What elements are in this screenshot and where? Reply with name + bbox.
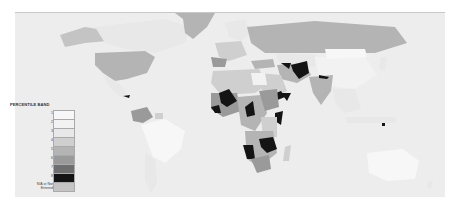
legend-title: PERCENTILE BAND [10, 102, 50, 107]
region-australia [367, 149, 419, 181]
legend-swatch-na [53, 182, 75, 192]
world-map-svg [15, 13, 445, 197]
legend-item-na: N/A or Not Entered [5, 182, 75, 191]
region-madagascar [283, 145, 291, 161]
region-guyana [155, 113, 163, 119]
legend-label: N/A or Not Entered [33, 183, 53, 190]
region-western-europe [215, 41, 247, 61]
legend-item-3: 3 [5, 128, 75, 137]
region-southern-cone [145, 153, 157, 193]
region-indonesia [345, 117, 397, 123]
region-japan [379, 57, 387, 71]
legend-item-2: 2 [5, 119, 75, 128]
region-egypt [251, 73, 267, 85]
region-angola-dark [243, 145, 255, 159]
region-caribbean-dark [123, 95, 130, 98]
region-india [309, 75, 333, 105]
region-turkey [251, 59, 275, 69]
legend-item-6: 6 [5, 155, 75, 164]
legend-item-7: 7 [5, 164, 75, 173]
legend-item-8: 8 [5, 173, 75, 182]
world-map [15, 12, 445, 197]
region-southeast-asia [333, 89, 361, 113]
legend-item-1: 1 [5, 110, 75, 119]
region-canada [95, 19, 190, 53]
region-scandinavia [225, 19, 251, 41]
region-new-zealand [427, 181, 433, 189]
region-dot-dark [382, 123, 385, 126]
region-russia [247, 21, 407, 53]
region-colombia-venezuela [131, 107, 153, 123]
legend-item-5: 5 [5, 146, 75, 155]
legend-item-4: 4 [5, 137, 75, 146]
